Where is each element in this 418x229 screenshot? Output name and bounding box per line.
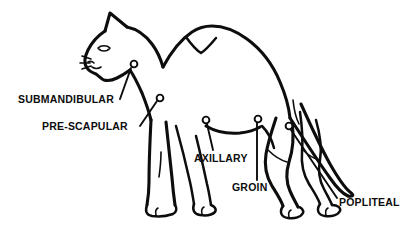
- popliteal-node-marker: [286, 123, 293, 130]
- lymph-node-markers: [131, 61, 293, 130]
- cat-eye: [98, 46, 110, 51]
- cat-head: [80, 13, 163, 80]
- label-submandibular: SUBMANDIBULAR: [18, 94, 114, 105]
- cat-mouth: [92, 67, 101, 69]
- cat-ear: [105, 13, 127, 31]
- label-popliteal: POPLITEAL: [339, 197, 400, 208]
- leader-line-prescapular: [140, 101, 157, 126]
- cat-foreleg-near-front: [147, 120, 151, 205]
- cat-back-line: [163, 26, 290, 118]
- cat-forepaw-far: [193, 204, 215, 215]
- cat-belly-line: [206, 126, 260, 133]
- cat-foreleg-muscle-hint: [159, 152, 161, 177]
- cat-foreleg-near-back: [166, 122, 175, 205]
- cat-hock-crease-near: [268, 150, 287, 162]
- axillary-node-marker: [203, 117, 210, 124]
- label-prescapular: PRE-SCAPULAR: [42, 121, 128, 132]
- prescapular-node-marker: [157, 95, 164, 102]
- cat-forepaw-near-toe: [156, 208, 158, 215]
- cat-chest-line: [130, 70, 151, 120]
- cat-forepaw-far-toe: [202, 207, 204, 214]
- cat-foreleg-far-front: [176, 126, 194, 204]
- groin-node-marker: [255, 116, 262, 123]
- lymph-node-diagram: SUBMANDIBULAR PRE-SCAPULAR AXILLARY GROI…: [0, 0, 418, 229]
- cat-foreleg-far-back: [196, 136, 211, 205]
- cat-shoulder-notch: [186, 37, 216, 53]
- submandibular-node-marker: [131, 61, 138, 68]
- label-groin: GROIN: [232, 182, 267, 193]
- cat-forelegs: [146, 120, 216, 216]
- cat-hindpaw-far-toe: [326, 208, 328, 215]
- cat-hindleg-near-back: [287, 122, 298, 207]
- cat-forepaw-near: [146, 205, 176, 216]
- cat-hindpaw-near: [281, 206, 303, 218]
- cat-tail-base-tuft: [293, 100, 299, 124]
- cat-hindpaw-near-toe: [289, 210, 291, 217]
- cat-head-outline: [85, 31, 130, 80]
- label-axillary: AXILLARY: [194, 153, 248, 164]
- cat-figure-svg: [0, 0, 418, 229]
- cat-hindpaw-far: [318, 204, 340, 216]
